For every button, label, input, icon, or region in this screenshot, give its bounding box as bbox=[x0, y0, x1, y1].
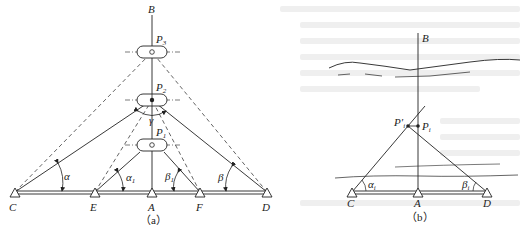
river-water-line-bottom bbox=[395, 164, 500, 167]
label-A-b: A bbox=[413, 197, 421, 209]
label-E: E bbox=[89, 201, 97, 213]
label-alpha-i: αi bbox=[368, 178, 376, 192]
label-alpha: α bbox=[64, 170, 70, 182]
label-beta: β bbox=[217, 171, 224, 183]
sightline-D-Pi-prime bbox=[408, 126, 487, 192]
beta-i-arc bbox=[473, 182, 476, 191]
beta-arc bbox=[226, 166, 232, 191]
label-Pi: Pi bbox=[421, 120, 431, 134]
river-water-line-top bbox=[338, 72, 470, 77]
caption-a: （a） bbox=[140, 214, 167, 226]
label-P1: P1 bbox=[155, 126, 166, 140]
label-C-a: C bbox=[9, 201, 17, 213]
point-Pi-prime bbox=[406, 124, 410, 128]
station-F-icon bbox=[195, 188, 205, 197]
label-D-a: D bbox=[261, 201, 270, 213]
label-C-b: C bbox=[347, 197, 355, 209]
beta1-arc bbox=[174, 172, 179, 191]
label-P3: P3 bbox=[155, 33, 167, 47]
measurement-diagram: B P3 P2 P1 γ α α1 β1 β C E A F D （a） B bbox=[0, 0, 525, 237]
caption-b: （b） bbox=[406, 211, 434, 223]
point-Pi bbox=[416, 124, 420, 128]
station-A-b-icon bbox=[413, 188, 423, 197]
alpha-arc bbox=[58, 163, 63, 191]
figure-b bbox=[329, 33, 520, 194]
label-B-a: B bbox=[148, 3, 155, 15]
label-gamma: γ bbox=[149, 114, 154, 126]
label-beta-i: βi bbox=[461, 178, 469, 192]
label-Pi-prime: P′i bbox=[393, 116, 405, 130]
label-F: F bbox=[195, 201, 203, 213]
alpha-i-arc bbox=[362, 180, 366, 191]
sightline-C-Pi-prime bbox=[352, 126, 408, 192]
label-beta1: β1 bbox=[164, 170, 174, 184]
label-A-a: A bbox=[147, 201, 155, 213]
river-bank-top bbox=[329, 59, 520, 70]
alpha1-arc bbox=[118, 172, 123, 191]
label-P2: P2 bbox=[155, 81, 167, 95]
label-D-b: D bbox=[482, 197, 491, 209]
label-B-b: B bbox=[422, 32, 429, 44]
river-bank-bottom bbox=[335, 175, 518, 178]
sightline-E-P1 bbox=[95, 152, 140, 192]
station-A-icon bbox=[147, 188, 157, 197]
target-p1 bbox=[137, 139, 167, 151]
label-alpha1: α1 bbox=[126, 171, 135, 185]
target-p3 bbox=[137, 46, 167, 58]
station-C-b-icon bbox=[347, 188, 357, 197]
target-p2 bbox=[137, 94, 167, 106]
stations-a bbox=[10, 188, 272, 197]
